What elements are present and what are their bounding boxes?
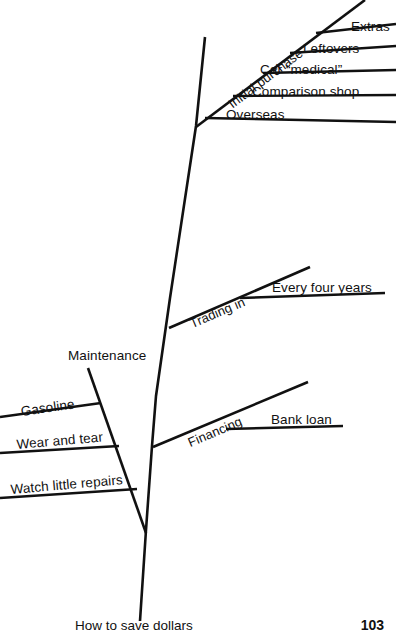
sub-label-comparison-shop: Comparison shop bbox=[252, 85, 359, 99]
sub-label-bank-loan: Bank loan bbox=[271, 413, 332, 427]
fishbone-diagram: Initial purchase Extras Leftovers Car “m… bbox=[0, 0, 396, 642]
page-caption: How to save dollars bbox=[75, 618, 193, 633]
sub-label-every-four-years: Every four years bbox=[272, 281, 372, 295]
branch-label-maintenance: Maintenance bbox=[68, 349, 146, 363]
page-number: 103 bbox=[361, 617, 384, 633]
sub-label-extras: Extras bbox=[351, 20, 390, 34]
sub-label-overseas: Overseas bbox=[226, 108, 285, 122]
sub-label-car-medical: Car “medical” bbox=[260, 63, 342, 77]
sub-label-leftovers: Leftovers bbox=[303, 42, 359, 56]
branch-maintenance-line bbox=[88, 368, 146, 533]
